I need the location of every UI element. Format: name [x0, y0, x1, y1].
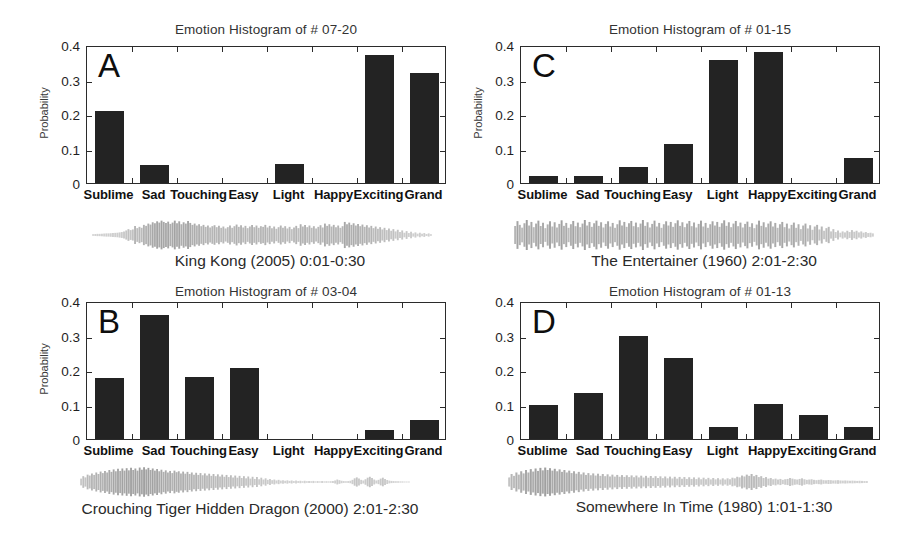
x-tick-label-easy: Easy	[663, 443, 693, 458]
y-tick-label-3: 0.3	[40, 73, 80, 88]
x-tick-4	[267, 178, 268, 183]
y-tick-label-0: 0	[40, 433, 80, 448]
y-tick-label-3: 0.3	[40, 329, 80, 344]
x-tick-label-exciting: Exciting	[788, 187, 838, 202]
x-tick-6	[357, 303, 358, 308]
x-tick-7	[836, 434, 837, 439]
x-tick-3	[222, 434, 223, 439]
x-tick-label-happy: Happy	[314, 187, 353, 202]
x-tick-2	[177, 47, 178, 52]
x-tick-5	[312, 303, 313, 308]
x-tick-6	[791, 303, 792, 308]
x-tick-2	[177, 178, 178, 183]
x-tick-6	[791, 434, 792, 439]
bar-sad	[140, 165, 170, 183]
bar-sublime	[95, 378, 125, 439]
bar-light	[709, 60, 739, 184]
x-tick-4	[701, 47, 702, 52]
y-tick-3	[440, 338, 445, 339]
x-tick-3	[222, 303, 223, 308]
panel-c-y-axis-title: Probability	[472, 80, 484, 146]
x-tick-6	[357, 47, 358, 52]
x-tick-label-touching: Touching	[170, 443, 227, 458]
x-tick-3	[656, 434, 657, 439]
y-tick-2	[440, 372, 445, 373]
x-tick-5	[746, 178, 747, 183]
x-tick-2	[611, 47, 612, 52]
bar-easy	[664, 358, 694, 439]
x-tick-label-exciting: Exciting	[788, 443, 838, 458]
x-tick-label-exciting: Exciting	[354, 443, 404, 458]
x-tick-label-touching: Touching	[170, 187, 227, 202]
y-tick-1	[440, 407, 445, 408]
bar-happy	[754, 52, 784, 183]
y-tick-2	[874, 372, 879, 373]
panel-c-caption: The Entertainer (1960) 2:01-2:30	[494, 252, 913, 270]
x-tick-3	[222, 47, 223, 52]
x-tick-label-easy: Easy	[229, 443, 259, 458]
x-tick-2	[611, 434, 612, 439]
x-tick-1	[566, 178, 567, 183]
x-tick-1	[132, 47, 133, 52]
panel-d-y-tick-labels: 00.10.20.30.4	[474, 302, 514, 440]
bar-easy	[230, 368, 260, 439]
panel-d-title: Emotion Histogram of # 01-13	[460, 284, 913, 299]
x-tick-1	[132, 178, 133, 183]
y-tick-label-3: 0.3	[474, 73, 514, 88]
x-tick-label-light: Light	[273, 187, 304, 202]
x-tick-4	[267, 303, 268, 308]
x-tick-5	[746, 47, 747, 52]
panel-b-waveform	[80, 466, 410, 498]
x-tick-5	[312, 434, 313, 439]
y-tick-label-2: 0.2	[474, 364, 514, 379]
x-tick-7	[402, 434, 403, 439]
x-tick-label-sad: Sad	[576, 443, 600, 458]
y-tick-label-0: 0	[40, 177, 80, 192]
y-tick-3	[874, 82, 879, 83]
x-tick-label-sublime: Sublime	[518, 443, 568, 458]
x-tick-4	[701, 434, 702, 439]
y-tick-1	[440, 151, 445, 152]
x-tick-4	[267, 47, 268, 52]
y-tick-2	[521, 372, 526, 373]
x-tick-4	[267, 434, 268, 439]
panel-d-caption: Somewhere In Time (1980) 1:01-1:30	[494, 498, 913, 516]
panel-c: Emotion Histogram of # 01-15C00.10.20.30…	[0, 0, 913, 557]
x-tick-4	[701, 303, 702, 308]
x-tick-label-light: Light	[273, 443, 304, 458]
x-tick-label-touching: Touching	[604, 443, 661, 458]
x-tick-1	[566, 303, 567, 308]
panel-b: Emotion Histogram of # 03-04B00.10.20.30…	[0, 0, 913, 557]
x-tick-2	[611, 303, 612, 308]
x-tick-2	[177, 303, 178, 308]
panel-d-axes	[520, 302, 880, 440]
bar-touching	[619, 336, 649, 440]
panel-c-letter: C	[532, 49, 556, 82]
bar-touching	[185, 377, 215, 439]
y-tick-label-4: 0.4	[40, 39, 80, 54]
y-tick-1	[87, 407, 92, 408]
panel-b-letter: B	[98, 305, 120, 338]
bar-exciting	[365, 430, 395, 439]
bar-light	[709, 427, 739, 439]
y-tick-2	[521, 116, 526, 117]
x-tick-label-exciting: Exciting	[354, 187, 404, 202]
y-tick-2	[87, 372, 92, 373]
x-tick-3	[656, 303, 657, 308]
x-tick-5	[312, 178, 313, 183]
x-tick-4	[701, 178, 702, 183]
panel-c-x-tick-labels: SublimeSadTouchingEasyLightHappyExciting…	[520, 187, 880, 205]
panel-d-waveform	[508, 466, 868, 498]
x-tick-2	[611, 178, 612, 183]
y-tick-2	[874, 116, 879, 117]
x-tick-1	[132, 434, 133, 439]
x-tick-6	[791, 178, 792, 183]
panel-b-x-tick-labels: SublimeSadTouchingEasyLightHappyExciting…	[86, 443, 446, 461]
y-tick-1	[874, 407, 879, 408]
y-tick-label-2: 0.2	[474, 108, 514, 123]
bar-sad	[140, 315, 170, 439]
y-tick-label-3: 0.3	[474, 329, 514, 344]
x-tick-label-sublime: Sublime	[84, 443, 134, 458]
x-tick-7	[836, 303, 837, 308]
panel-b-caption: Crouching Tiger Hidden Dragon (2000) 2:0…	[30, 500, 470, 518]
